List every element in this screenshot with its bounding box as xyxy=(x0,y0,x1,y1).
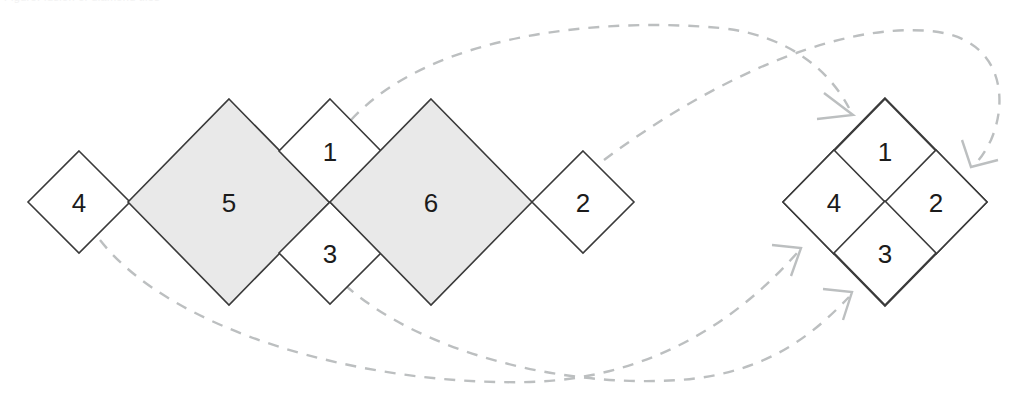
tile-label: 5 xyxy=(222,188,236,218)
arrow-curve xyxy=(345,285,849,381)
tile-label: 2 xyxy=(929,188,943,218)
diamond-tiling-figure: 451362 1423 xyxy=(0,0,1022,409)
arrow-head-icon xyxy=(962,140,998,167)
arrow-curve xyxy=(604,30,999,165)
tile-label: 6 xyxy=(424,188,438,218)
arrow-head-icon xyxy=(823,289,852,320)
tile-label: 4 xyxy=(72,188,86,218)
tile-label: 3 xyxy=(323,239,337,269)
tile-2-source[interactable]: 2 xyxy=(532,151,634,253)
arrow-3-to-3 xyxy=(345,285,852,381)
tile-label: 1 xyxy=(323,137,337,167)
tile-label: 2 xyxy=(576,188,590,218)
tile-label: 4 xyxy=(827,188,841,218)
tile-4-source[interactable]: 4 xyxy=(28,151,130,253)
left-tiling-group: 451362 xyxy=(28,99,634,305)
tile-label: 3 xyxy=(878,239,892,269)
arrow-head-icon xyxy=(772,245,801,276)
right-tiling-group: 1423 xyxy=(783,98,987,306)
diagram-canvas: Figure: fusion of diamond tiles 451362 1… xyxy=(0,0,1022,409)
tile-label: 1 xyxy=(878,137,892,167)
arrow-2-to-2 xyxy=(604,30,999,167)
